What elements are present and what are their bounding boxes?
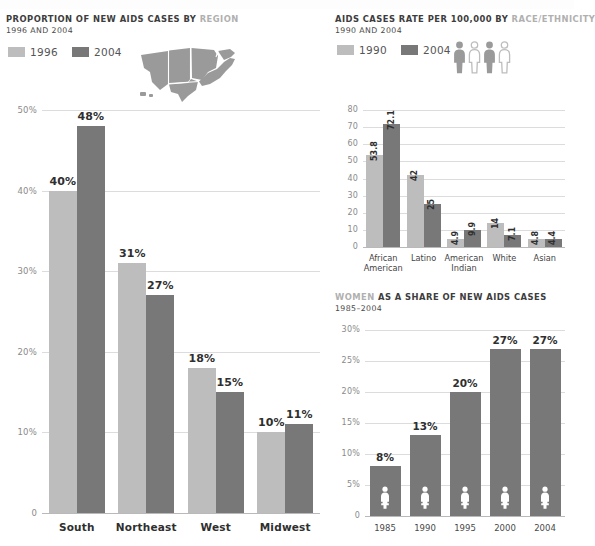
y-axis-tick-label: 30% [6, 266, 37, 276]
y-axis-tick-label: 0 [335, 511, 360, 520]
y-axis-tick-label: 40 [335, 174, 358, 183]
y-axis-tick-label: 60 [335, 139, 358, 148]
bar-value-label: 42 [410, 170, 419, 181]
bar-value-label: 4.8 [531, 231, 540, 245]
bar-value-label: 72.1 [387, 110, 396, 130]
legend-swatch-2004-race [401, 45, 418, 55]
legend-label-2004: 2004 [94, 46, 122, 58]
bar-value-label: 25 [427, 199, 436, 210]
woman-figure-icon [459, 486, 471, 514]
x-axis-category-label: Latino [403, 253, 443, 263]
y-axis-tick-label: 15% [335, 418, 360, 427]
y-axis-tick-label: 50% [6, 105, 37, 115]
x-axis-category-label: Midwest [251, 521, 321, 533]
women-title-main: AS A SHARE OF NEW AIDS CASES [375, 292, 547, 302]
woman-figure-icon [499, 486, 511, 514]
x-axis-category-label: 1995 [445, 523, 485, 533]
bar-value-label: 8% [361, 451, 409, 463]
bar [188, 368, 216, 513]
legend-item-1990: 1990 [337, 44, 387, 56]
y-axis-tick-label: 50 [335, 156, 358, 165]
x-axis-category-label: AfricanAmerican [363, 253, 403, 273]
bar-value-label: 18% [178, 352, 226, 365]
bar-value-label: 4.4 [548, 231, 557, 245]
bar-value-label: 20% [441, 377, 489, 389]
region-title-muted: REGION [200, 14, 239, 24]
bar [424, 204, 441, 247]
panel-rate-by-race: AIDS CASES RATE PER 100,000 BY RACE/ETHN… [335, 14, 571, 279]
bar [366, 155, 383, 247]
x-axis-category-label: Asian [525, 253, 565, 263]
y-axis-tick-label: 70 [335, 122, 358, 131]
race-legend: 1990 2004 [337, 44, 451, 56]
y-axis-tick-label: 30% [335, 325, 360, 334]
x-axis-category-label: 2004 [525, 523, 565, 533]
y-axis-tick-label: 10% [335, 449, 360, 458]
bar [285, 424, 313, 513]
bar-value-label: 31% [108, 247, 156, 260]
legend-swatch-1990 [337, 45, 354, 55]
bar [383, 124, 400, 247]
region-panel-subtitle: 1996 AND 2004 [6, 26, 326, 35]
bar-value-label: 15% [206, 376, 254, 389]
legend-item-2004: 2004 [72, 46, 122, 58]
y-axis-tick-label: 20% [335, 387, 360, 396]
region-panel-title: PROPORTION OF NEW AIDS CASES BY REGION [6, 14, 326, 24]
region-legend: 1996 2004 [8, 46, 122, 58]
legend-label-1990: 1990 [359, 44, 387, 56]
bar-value-label: 11% [275, 408, 323, 421]
x-axis-category-label: West [181, 521, 251, 533]
axis-baseline [365, 516, 565, 517]
bar-value-label: 9.9 [468, 222, 477, 236]
bar-value-label: 13% [401, 420, 449, 432]
legend-label-1996: 1996 [30, 46, 58, 58]
panel-proportion-by-region: PROPORTION OF NEW AIDS CASES BY REGION 1… [6, 14, 326, 534]
top-crop-strip [0, 0, 574, 9]
y-axis-tick-label: 40% [6, 186, 37, 196]
y-axis-tick-label: 20% [6, 347, 37, 357]
bar-value-label: 48% [67, 110, 115, 123]
bar [257, 432, 285, 513]
woman-figure-icon [379, 486, 391, 514]
y-axis-tick-label: 20 [335, 208, 358, 217]
bar-value-label: 4.9 [451, 230, 460, 244]
chart-proportion-by-region: 010%20%30%40%50%40%48%South31%27%Northea… [6, 98, 326, 543]
woman-figure-icon [539, 486, 551, 514]
y-axis-tick-label: 10 [335, 225, 358, 234]
woman-figure-icon [419, 486, 431, 514]
bar [118, 263, 146, 513]
race-panel-title: AIDS CASES RATE PER 100,000 BY RACE/ETHN… [335, 14, 571, 24]
y-axis-tick-label: 25% [335, 356, 360, 365]
panel-women-share: WOMEN AS A SHARE OF NEW AIDS CASES 1985–… [335, 292, 571, 542]
women-panel-subtitle: 1985–2004 [335, 304, 571, 313]
y-axis-tick-label: 10% [6, 427, 37, 437]
race-panel-subtitle: 1990 AND 2004 [335, 26, 571, 35]
x-axis-category-label: White [484, 253, 524, 263]
legend-swatch-2004 [72, 47, 89, 57]
bar [146, 295, 174, 513]
bar-value-label: 7.1 [508, 227, 517, 241]
axis-baseline [363, 247, 565, 248]
x-axis-category-label: AmericanIndian [444, 253, 484, 273]
legend-swatch-1996 [8, 47, 25, 57]
people-group-icon [452, 40, 516, 78]
y-axis-tick-label: 0 [335, 242, 358, 251]
gridline [365, 330, 565, 331]
bar [407, 175, 424, 247]
race-title-main: AIDS CASES RATE PER 100,000 BY [335, 14, 512, 24]
x-axis-category-label: Northeast [112, 521, 182, 533]
legend-item-2004-race: 2004 [401, 44, 451, 56]
race-title-muted: RACE/ETHNICITY [512, 14, 595, 24]
chart-women-share: 05%10%15%20%25%30%8%198513%199020%199527… [335, 314, 571, 542]
y-axis-tick-label: 80 [335, 105, 358, 114]
bar [77, 126, 105, 513]
y-axis-tick-label: 5% [335, 480, 360, 489]
y-axis-tick-label: 0 [6, 508, 37, 518]
bar-value-label: 27% [521, 334, 569, 346]
x-axis-category-label: 1985 [365, 523, 405, 533]
y-axis-tick-label: 30 [335, 191, 358, 200]
us-map-regions-icon [138, 38, 243, 106]
bar-value-label: 14 [491, 218, 500, 229]
women-title-muted: WOMEN [335, 292, 375, 302]
bar [216, 392, 244, 513]
